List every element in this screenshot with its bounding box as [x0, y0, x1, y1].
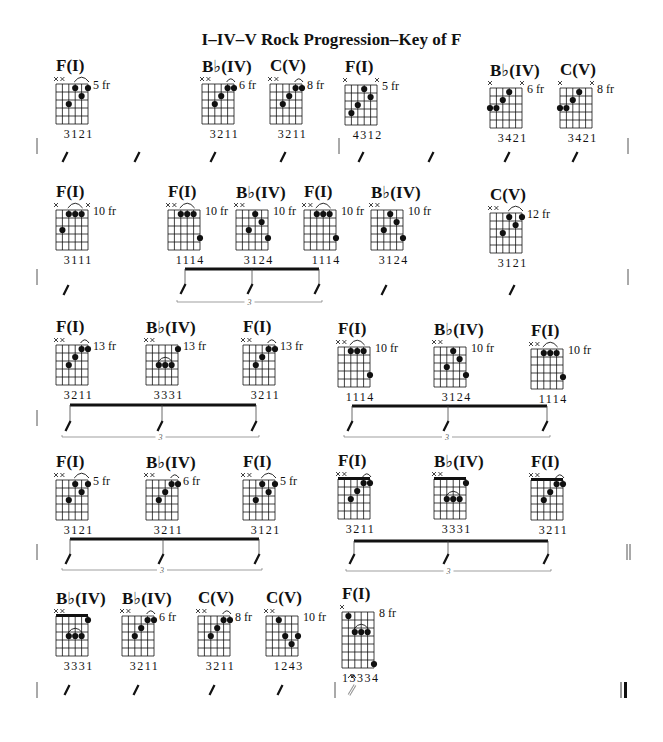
rhythm-slash-icon	[444, 421, 449, 431]
rhythm-slash-icon	[315, 284, 320, 294]
svg-text:3: 3	[444, 433, 449, 442]
rhythm-slash-icon	[573, 152, 578, 162]
rhythm-slash-icon	[66, 554, 71, 564]
rhythm-slash-icon	[350, 554, 355, 564]
rhythm-slash-icon	[359, 152, 364, 162]
rhythm-slash-icon	[510, 285, 515, 295]
rhythm-slash-icon	[281, 152, 286, 162]
whole-note-slash-icon	[349, 685, 355, 695]
triplet-group: 3	[177, 268, 322, 308]
fermata-icon	[348, 675, 356, 678]
rhythm-slash-icon	[134, 685, 139, 695]
svg-text:3: 3	[446, 567, 451, 576]
svg-text:3: 3	[159, 566, 164, 575]
triplet-group: 3	[344, 405, 550, 443]
rhythm-slash-icon	[210, 685, 215, 695]
rhythm-slash-icon	[64, 285, 69, 295]
svg-text:3: 3	[247, 298, 252, 307]
rhythm-slash-icon	[63, 152, 68, 162]
svg-text:3: 3	[158, 433, 163, 442]
rhythm-slash-icon	[252, 421, 257, 431]
rhythm-slash-icon	[444, 554, 449, 564]
rhythm-slash-icon	[211, 152, 216, 162]
rhythm-slash-icon	[181, 284, 186, 294]
final-barline	[621, 682, 627, 698]
rhythm-slash-icon	[159, 554, 164, 564]
rhythm-slash-icon	[65, 685, 70, 695]
rhythm-slash-icon	[429, 152, 434, 162]
rhythm-slash-icon	[505, 152, 510, 162]
rhythm-slash-icon	[248, 284, 253, 294]
triplet-group: 3	[346, 540, 551, 577]
rhythm-notation: 33333	[0, 0, 663, 742]
rhythm-slash-icon	[348, 421, 353, 431]
rhythm-slash-icon	[543, 421, 548, 431]
rhythm-slash-icon	[544, 554, 549, 564]
rhythm-slash-icon	[158, 421, 163, 431]
rhythm-slash-icon	[278, 685, 283, 695]
triplet-group: 3	[62, 538, 262, 576]
triplet-group: 3	[62, 404, 259, 443]
rhythm-slash-icon	[382, 285, 387, 295]
double-barline	[627, 544, 630, 560]
rhythm-slash-icon	[255, 554, 260, 564]
rhythm-slash-icon	[135, 152, 140, 162]
rhythm-slash-icon	[66, 421, 71, 431]
